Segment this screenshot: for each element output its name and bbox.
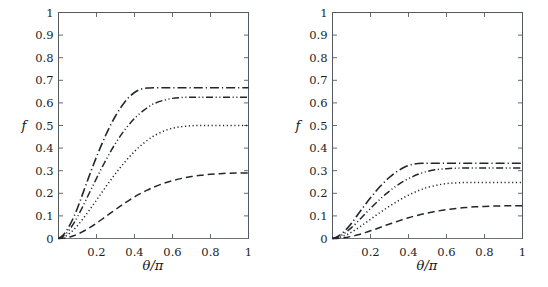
- x-tick-label: 0.4: [125, 245, 143, 259]
- x-tick-label: 0.6: [437, 245, 455, 259]
- x-tick-label: 1: [245, 245, 252, 259]
- x-tick-label: 0.8: [475, 245, 493, 259]
- y-tick-label: 0.8: [35, 51, 53, 65]
- curve-curve-2: [333, 168, 523, 239]
- y-tick-label: 0: [46, 232, 53, 246]
- x-tick-label: 0.4: [399, 245, 417, 259]
- axis-frame: [333, 13, 523, 239]
- y-tick-label: 0.1: [35, 209, 53, 223]
- y-tick-label: 0.3: [309, 164, 327, 178]
- y-tick-label: 1: [320, 6, 327, 20]
- y-tick-label: 0.2: [35, 186, 53, 200]
- y-axis-tick-labels: 00.10.20.30.40.50.60.70.80.91: [309, 6, 327, 246]
- x-tick-label: 0.6: [163, 245, 181, 259]
- curve-curve-1: [59, 88, 249, 239]
- x-tick-label: 1: [519, 245, 526, 259]
- y-axis-title: f: [295, 118, 303, 133]
- y-tick-label: 0.7: [35, 73, 53, 87]
- x-tick-label: 0.2: [361, 245, 379, 259]
- figure-root: 00.10.20.30.40.50.60.70.80.91 0.20.40.60…: [0, 0, 548, 287]
- y-tick-label: 0.2: [309, 186, 327, 200]
- curve-group: [333, 163, 523, 238]
- curve-curve-1: [333, 163, 523, 238]
- x-tick-label: 0.2: [87, 245, 105, 259]
- x-axis-title: θ/π: [417, 258, 438, 273]
- y-tick-label: 0.6: [309, 96, 327, 110]
- plot-area-right: 00.10.20.30.40.50.60.70.80.91 0.20.40.60…: [295, 6, 527, 274]
- y-axis-title: f: [21, 118, 29, 133]
- x-axis-title: θ/π: [143, 258, 164, 273]
- y-tick-label: 0.9: [35, 28, 53, 42]
- curve-curve-3: [59, 125, 249, 238]
- y-tick-label: 0.9: [309, 28, 327, 42]
- y-tick-label: 0.4: [309, 141, 327, 155]
- chart-panel-left: 00.10.20.30.40.50.60.70.80.91 0.20.40.60…: [0, 0, 274, 287]
- x-axis-ticks: [97, 13, 249, 239]
- y-tick-label: 0.4: [35, 141, 53, 155]
- y-axis-tick-labels: 00.10.20.30.40.50.60.70.80.91: [35, 6, 53, 246]
- y-tick-label: 0.5: [309, 119, 327, 133]
- y-tick-label: 0.8: [309, 51, 327, 65]
- x-tick-label: 0.8: [201, 245, 219, 259]
- y-tick-label: 0: [320, 232, 327, 246]
- plot-area-left: 00.10.20.30.40.50.60.70.80.91 0.20.40.60…: [21, 6, 253, 274]
- y-axis-ticks: [333, 13, 523, 239]
- y-tick-label: 0.5: [35, 119, 53, 133]
- chart-svg-right: 00.10.20.30.40.50.60.70.80.91 0.20.40.60…: [274, 0, 548, 287]
- curve-group: [59, 88, 249, 239]
- x-axis-tick-labels: 0.20.40.60.81: [361, 245, 526, 259]
- x-axis-tick-labels: 0.20.40.60.81: [87, 245, 252, 259]
- chart-panel-right: 00.10.20.30.40.50.60.70.80.91 0.20.40.60…: [274, 0, 548, 287]
- chart-svg-left: 00.10.20.30.40.50.60.70.80.91 0.20.40.60…: [0, 0, 274, 287]
- y-tick-label: 0.1: [309, 209, 327, 223]
- curve-curve-2: [59, 97, 249, 238]
- y-tick-label: 0.6: [35, 96, 53, 110]
- y-tick-label: 1: [46, 6, 53, 20]
- curve-curve-4: [59, 173, 249, 239]
- y-tick-label: 0.7: [309, 73, 327, 87]
- y-tick-label: 0.3: [35, 164, 53, 178]
- x-axis-ticks: [371, 13, 523, 239]
